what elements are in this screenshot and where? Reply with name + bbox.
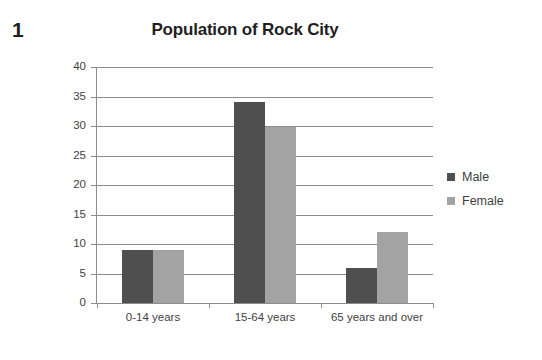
y-axis-tick-labels: 4035302520151050 — [42, 67, 86, 304]
legend-swatch-male-icon — [447, 173, 455, 181]
y-tick-label: 15 — [46, 209, 86, 221]
y-tick-label: 20 — [46, 179, 86, 191]
bar-male-2 — [346, 268, 377, 303]
x-tick-label: 15-64 years — [235, 311, 296, 323]
x-tick-mark — [321, 303, 322, 308]
legend-label-male: Male — [462, 171, 489, 184]
y-tick-label: 5 — [46, 268, 86, 280]
y-tick-mark — [91, 156, 97, 157]
bar-female-2 — [377, 232, 408, 303]
gridline — [97, 303, 433, 304]
bar-female-0 — [153, 250, 184, 303]
y-tick-mark — [91, 126, 97, 127]
bar-male-1 — [234, 102, 265, 303]
y-tick-mark — [91, 97, 97, 98]
legend-item-male: Male — [447, 165, 537, 189]
legend-label-female: Female — [462, 195, 504, 208]
bar-chart-figure: Population of Rock City Population (%) 4… — [0, 0, 542, 360]
chart-title: Population of Rock City — [60, 20, 430, 40]
y-tick-mark — [91, 185, 97, 186]
bar-female-1 — [265, 127, 296, 303]
y-tick-label: 35 — [46, 91, 86, 103]
x-tick-mark — [433, 303, 434, 308]
x-tick-mark — [209, 303, 210, 308]
x-tick-mark — [97, 303, 98, 308]
legend-item-female: Female — [447, 189, 537, 213]
y-tick-mark — [91, 274, 97, 275]
y-tick-label: 40 — [46, 61, 86, 73]
y-tick-label: 10 — [46, 238, 86, 250]
legend-swatch-female-icon — [447, 197, 455, 205]
y-tick-mark — [91, 215, 97, 216]
y-tick-label: 0 — [46, 297, 86, 309]
y-tick-mark — [91, 67, 97, 68]
x-axis-tick-labels: 0-14 years15-64 years65 years and over — [97, 311, 433, 331]
bar-male-0 — [122, 250, 153, 303]
y-tick-label: 25 — [46, 150, 86, 162]
gridline — [97, 97, 433, 98]
x-tick-label: 0-14 years — [126, 311, 180, 323]
y-tick-mark — [91, 244, 97, 245]
x-tick-label: 65 years and over — [331, 311, 423, 323]
y-tick-label: 30 — [46, 120, 86, 132]
plot-area — [97, 67, 433, 303]
gridline — [97, 67, 433, 68]
chart-legend: Male Female — [447, 165, 537, 213]
